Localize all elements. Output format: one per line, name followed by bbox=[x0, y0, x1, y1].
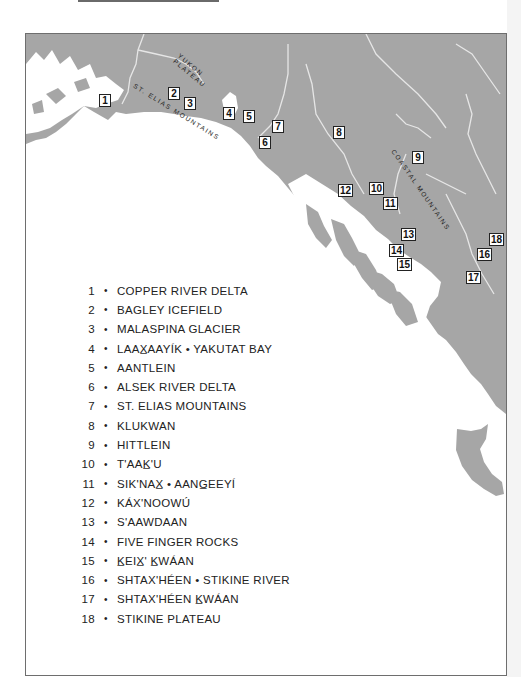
legend-item: 9•HITTLEIN bbox=[73, 435, 290, 454]
queen-charlotte-island bbox=[456, 424, 504, 496]
legend-item: 12•KÁX'NOOWÚ bbox=[73, 493, 290, 512]
legend-item: 7•ST. ELIAS MOUNTAINS bbox=[73, 397, 290, 416]
map-marker-3[interactable]: 3 bbox=[184, 97, 196, 110]
legend-item: 16•SHTAX'HÉEN • STIKINE RIVER bbox=[73, 570, 290, 589]
map-marker-7[interactable]: 7 bbox=[272, 120, 284, 133]
map-marker-1[interactable]: 1 bbox=[99, 94, 111, 107]
map-marker-8[interactable]: 8 bbox=[333, 126, 345, 139]
legend-item: 5•AANTLEIN bbox=[73, 358, 290, 377]
legend-item: 2•BAGLEY ICEFIELD bbox=[73, 300, 290, 319]
legend-item: 6•ALSEK RIVER DELTA bbox=[73, 377, 290, 396]
map-frame: YUKON PLATEAU ST. ELIAS MOUNTAINS COASTA… bbox=[25, 33, 507, 676]
legend-item: 3•MALASPINA GLACIER bbox=[73, 320, 290, 339]
map-marker-14[interactable]: 14 bbox=[389, 244, 404, 257]
header-rule bbox=[78, 0, 219, 2]
map-marker-17[interactable]: 17 bbox=[466, 271, 481, 284]
legend-item: 4•LAAX̲AAYÍK • YAKUTAT BAY bbox=[73, 339, 290, 358]
place-legend: 1•COPPER RIVER DELTA 2•BAGLEY ICEFIELD 3… bbox=[73, 281, 290, 628]
map-marker-12[interactable]: 12 bbox=[338, 184, 353, 197]
legend-item: 15•K̲EIX̲' K̲WÁAN bbox=[73, 551, 290, 570]
page-margin bbox=[507, 0, 521, 677]
legend-item: 14•FIVE FINGER ROCKS bbox=[73, 532, 290, 551]
map-marker-9[interactable]: 9 bbox=[412, 151, 424, 164]
legend-item: 13•S'AAWDAAN bbox=[73, 513, 290, 532]
map-marker-16[interactable]: 16 bbox=[477, 248, 492, 261]
map-marker-15[interactable]: 15 bbox=[397, 258, 412, 271]
map-marker-11[interactable]: 11 bbox=[383, 197, 398, 210]
map-marker-2[interactable]: 2 bbox=[168, 87, 180, 100]
legend-item: 10•T'AAK̲'U bbox=[73, 455, 290, 474]
map-marker-4[interactable]: 4 bbox=[223, 107, 235, 120]
legend-item: 1•COPPER RIVER DELTA bbox=[73, 281, 290, 300]
legend-item: 11•SIK'NAX̲ • AANG̲EEYÍ bbox=[73, 474, 290, 493]
map-marker-5[interactable]: 5 bbox=[243, 110, 255, 123]
legend-item: 17•SHTAX'HÉEN K̲WÁAN bbox=[73, 590, 290, 609]
map-marker-13[interactable]: 13 bbox=[401, 228, 416, 241]
legend-item: 18•STIKINE PLATEAU bbox=[73, 609, 290, 628]
map-marker-18[interactable]: 18 bbox=[489, 233, 504, 246]
map-marker-10[interactable]: 10 bbox=[369, 182, 384, 195]
map-marker-6[interactable]: 6 bbox=[259, 136, 271, 149]
legend-item: 8•KLUKWAN bbox=[73, 416, 290, 435]
